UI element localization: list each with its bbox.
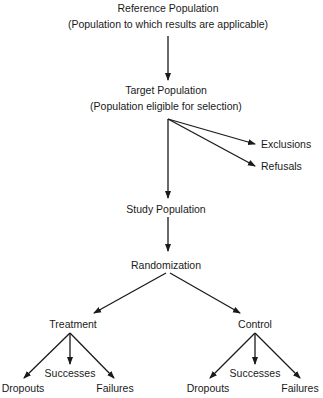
treatment-failures-label: Failures xyxy=(96,383,133,394)
control-dropouts-label: Dropouts xyxy=(187,383,230,394)
treatment-successes-label: Successes xyxy=(45,368,96,379)
exclusions-label: Exclusions xyxy=(261,139,311,150)
target-population-title: Target Population xyxy=(125,85,207,96)
reference-population-subtitle: (Population to which results are applica… xyxy=(68,19,268,30)
study-population-label: Study Population xyxy=(126,204,205,215)
target-population-subtitle: (Population eligible for selection) xyxy=(90,101,242,112)
flow-arrows xyxy=(0,0,323,398)
reference-population-title: Reference Population xyxy=(118,3,219,14)
control-label: Control xyxy=(238,319,272,330)
treatment-dropouts-label: Dropouts xyxy=(2,383,45,394)
randomization-label: Randomization xyxy=(131,260,201,271)
control-successes-label: Successes xyxy=(230,368,281,379)
refusals-label: Refusals xyxy=(261,161,302,172)
control-failures-label: Failures xyxy=(281,383,318,394)
treatment-label: Treatment xyxy=(49,319,96,330)
